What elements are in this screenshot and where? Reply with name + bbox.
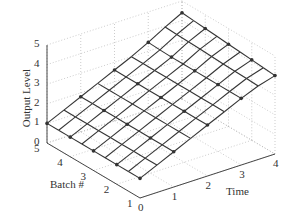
y-tick-label: 5	[34, 142, 40, 154]
x-axis-label: Time	[226, 185, 249, 197]
surface-plot	[0, 0, 305, 214]
z-tick-label: 3	[34, 76, 40, 88]
x-tick-label: 0	[138, 201, 144, 213]
z-axis-label: Output Level	[20, 63, 32, 133]
z-tick-label: 1	[34, 115, 40, 127]
y-tick-label: 4	[57, 156, 63, 168]
z-tick-label: 5	[34, 37, 40, 49]
z-tick-label: 4	[34, 57, 40, 69]
x-tick-label: 1	[172, 190, 178, 202]
y-tick-label: 1	[127, 197, 133, 209]
x-tick-label: 3	[239, 168, 245, 180]
x-tick-label: 2	[206, 179, 212, 191]
z-tick-label: 2	[34, 96, 40, 108]
y-tick-label: 2	[104, 183, 110, 195]
x-tick-label: 4	[273, 157, 279, 169]
y-axis-label: Batch #	[50, 178, 84, 190]
